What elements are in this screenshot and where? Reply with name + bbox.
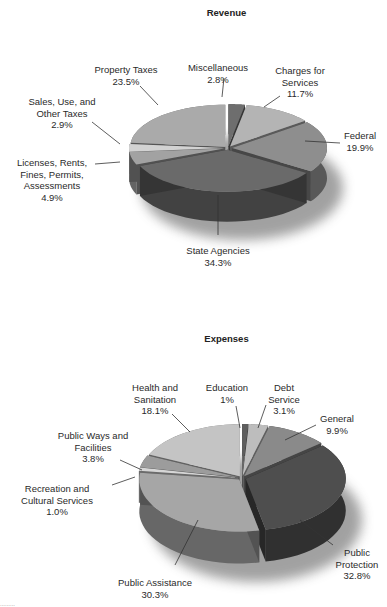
expenses-slice-label: Recreation andCultural Services1.0% <box>21 483 93 518</box>
expenses-slice-label: Public Assistance30.3% <box>118 577 192 600</box>
expenses-slice-label: Health andSanitation18.1% <box>132 382 178 417</box>
expenses-slice-label: Education1% <box>206 382 248 405</box>
revenue-slice-label: Sales, Use, andOther Taxes2.9% <box>28 96 95 131</box>
leader-line <box>140 86 158 105</box>
expenses-slice-label: PublicProtection32.8% <box>336 547 379 582</box>
leader-line <box>95 162 120 164</box>
revenue-slice-label: Licenses, Rents,Fines, Permits,Assessmen… <box>17 157 87 203</box>
cropped-footer-text: ......... <box>0 601 40 606</box>
leader-line <box>258 405 266 428</box>
leader-line <box>92 122 120 144</box>
leader-line <box>172 414 190 432</box>
revenue-slice-label: Charges forServices11.7% <box>275 65 325 100</box>
expenses-slice-label: DebtService3.1% <box>268 382 300 417</box>
expenses-slice-label: Public Ways andFacilities3.8% <box>58 430 128 465</box>
leader-line <box>112 477 135 485</box>
revenue-slice-label: Property Taxes23.5% <box>94 64 157 87</box>
revenue-slice-label: State Agencies34.3% <box>186 245 249 268</box>
revenue-slice-label: Federal19.9% <box>344 130 376 153</box>
expenses-slice-label: General9.9% <box>320 413 354 436</box>
revenue-pie-slice-property-taxes <box>131 105 226 147</box>
revenue-slice-label: Miscellaneous2.8% <box>188 62 248 85</box>
